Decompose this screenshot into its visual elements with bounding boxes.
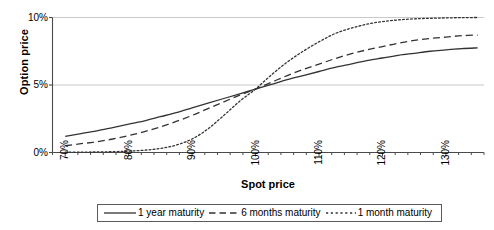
legend-item: 6 months maturity [208,208,324,218]
legend-label: 1 month maturity [357,208,436,218]
legend-item: 1 year maturity [103,208,208,218]
x-axis-title: Spot price [52,178,484,190]
x-tick-label: 70% [60,140,70,180]
x-tick-label: 100% [251,140,261,180]
x-tick-label: 120% [377,140,387,180]
legend-swatch-dotted [325,209,357,217]
x-tick-label-group: 70%80%90%100%110%120%130% [0,0,494,230]
x-tick-label: 130% [441,140,451,180]
x-tick-label: 80% [124,140,134,180]
legend-label: 6 months maturity [240,208,324,218]
x-tick-label: 90% [187,140,197,180]
legend-swatch-solid [103,209,137,217]
option-price-chart: Option price 0%5%10% 70%80%90%100%110%12… [0,0,494,230]
x-tick-label: 110% [314,140,324,180]
legend-swatch-dashed [208,209,240,217]
chart-legend: 1 year maturity6 months maturity1 month … [97,204,442,222]
legend-label: 1 year maturity [137,208,208,218]
legend-item: 1 month maturity [325,208,436,218]
